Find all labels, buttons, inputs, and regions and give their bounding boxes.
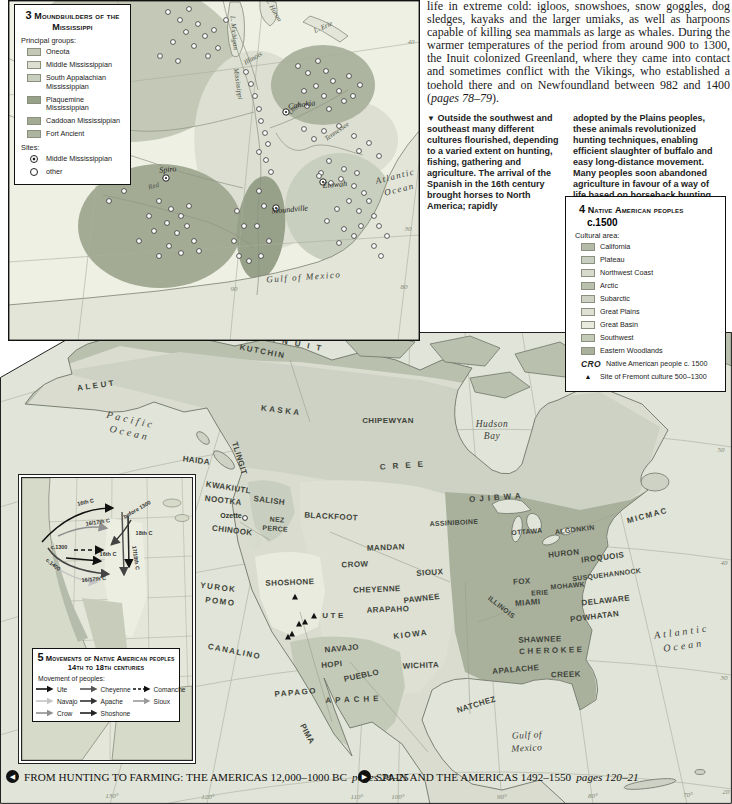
site-other [367,141,372,146]
inset5-inner: 16th C16/17th Cbefore 130018th Cc.130016… [21,477,193,761]
site-other [166,10,171,15]
map-label: 18th C [136,530,153,536]
caption-col2: adopted by the Plains peoples, these ani… [573,113,723,201]
movement-row: Crow [36,709,78,717]
site-type-row: other [27,168,126,177]
map-label: FOX [513,576,531,586]
moundbuilder-group-swatch [27,74,41,82]
map-label: 50 [718,446,726,454]
site-other [266,142,271,147]
legend-moundbuilders: 3 Moundbuilders of the Mississippi Princ… [14,4,131,185]
footer-ref-right[interactable]: ▶ SPAIN AND THE AMERICAS 1492–1550 pages… [358,770,639,783]
movement-label: Apache [101,698,123,705]
cultural-area-swatch [581,256,595,264]
site-other [152,229,157,234]
site-other [157,199,162,204]
site-other [327,159,332,164]
site-other [137,239,142,244]
movement-label: Cheyenne [101,686,131,693]
site-other [317,174,322,179]
moundbuilder-group-label: Fort Ancient [46,130,84,139]
footer-left-text: FROM HUNTING TO FARMING: THE AMERICAS 12… [24,771,347,783]
site-other [316,59,321,64]
caption-col1: ▼ Outside the southwest and southeast ma… [427,113,560,212]
movement-arrow-icon [80,697,98,705]
legend5-movement-label: Movement of peoples: [38,675,176,682]
map-label: 110° [351,793,364,801]
movement-row: Apache [80,697,131,705]
map-label: 30 [404,225,413,233]
map-label: 40 [721,559,729,567]
site-other [259,254,264,259]
legend4-title: 4 Native American peoples [579,204,718,216]
caption-col2-text: adopted by the Plains peoples, these ani… [573,113,714,200]
site-other [242,224,247,229]
legend5-number: 5 [37,651,43,663]
site-other [185,224,190,229]
site-other [352,234,357,239]
site-other [247,259,252,264]
site-other [377,154,382,159]
cultural-area-swatch [581,334,595,342]
moundbuilder-group-swatch [27,61,41,69]
site-type-icon [30,168,38,176]
site-other [187,204,192,209]
site-other [342,167,347,172]
footer-cross-references: ◀ FROM HUNTING TO FARMING: THE AMERICAS … [0,770,732,788]
site-type-row: Middle Mississippian [27,155,126,164]
movement-arrow-icon [36,697,54,705]
site-other [197,249,202,254]
moundbuilder-group-row: Middle Mississippian [27,61,126,70]
site-other [171,40,176,45]
site-other [327,107,332,112]
site-other [351,94,356,99]
site-other [267,239,272,244]
movement-label: Navajo [57,698,78,705]
site-other [158,54,163,59]
map-label: Bay [484,431,501,441]
moundbuilder-group-label: Plaquemine Mississippian [46,96,126,113]
map-label: 70° [683,791,693,799]
moundbuilder-group-row: Plaquemine Mississippian [27,96,126,113]
article-p1: life in extreme cold: igloos, snowshoes,… [427,0,730,105]
site-other [379,254,384,259]
caption-marker: ▼ [427,114,435,123]
cultural-area-row: Subarctic [581,295,718,304]
site-other [167,244,172,249]
site-other [257,150,262,155]
site-other [216,46,221,51]
site-other [184,30,189,35]
cultural-area-row: California [581,243,718,252]
site-other [249,82,254,87]
map-label: CREEK [551,669,581,679]
legend5-title-text: Movements of Native American peoples 14t… [46,654,175,672]
site-other [122,189,127,194]
site-other [324,69,329,74]
cultural-area-label: Southwest [600,334,634,343]
site-other [372,244,377,249]
site-other [331,79,336,84]
site-other [206,54,211,59]
cultural-area-label: Great Basin [600,321,638,330]
moundbuilder-group-label: Middle Mississippian [46,61,112,70]
site-type-label: Middle Mississippian [46,155,112,164]
cultural-area-row: Eastern Woodlands [581,347,718,356]
movement-label: Shoshone [101,710,131,717]
cultural-area-row: Arctic [581,282,718,291]
site-type-label: other [46,168,62,177]
site-other [157,254,162,259]
atlas-page: INUITKUTCHINALEUTKASKACHIPEWYANTLINGITHA… [0,0,732,804]
moundbuilder-group-swatch [27,130,41,138]
map-label: SHOSHONE [265,577,315,588]
site-other [337,241,342,246]
map-label: 120° [201,793,215,801]
site-other [192,239,197,244]
site-other [169,207,174,212]
map-label: 90° [497,793,507,801]
footer-ref-left[interactable]: ◀ FROM HUNTING TO FARMING: THE AMERICAS … [6,770,409,783]
site-other [179,251,184,256]
site-other [263,131,268,136]
site-other [358,83,363,88]
article-text: life in extreme cold: igloos, snowshoes,… [427,0,730,105]
site-other [147,214,152,219]
